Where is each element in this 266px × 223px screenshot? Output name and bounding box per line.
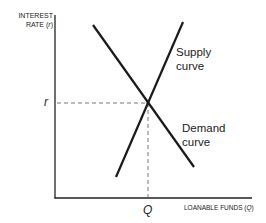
supply-curve-label: Supply curve: [176, 45, 211, 73]
y-tick-r: r: [44, 95, 48, 109]
supply-curve: [116, 22, 183, 177]
y-axis-label-line1: INTEREST: [1, 11, 53, 20]
x-axis-label: LOANABLE FUNDS (Q): [184, 204, 254, 211]
y-axis-label: INTEREST RATE (r): [1, 11, 53, 29]
chart-canvas: [0, 0, 266, 223]
equilibrium-point: [147, 102, 150, 105]
x-tick-q: Q: [143, 203, 152, 217]
y-axis-label-line2: RATE (r): [1, 20, 53, 29]
demand-curve-label: Demand curve: [182, 121, 225, 149]
